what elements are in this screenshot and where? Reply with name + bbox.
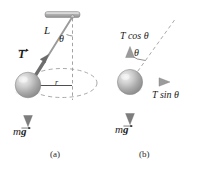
mass-symbol-a: m — [13, 125, 21, 137]
angle-arc-a — [67, 35, 73, 37]
tension-horizontal-component-label: T sin θ — [152, 90, 179, 100]
tension-vector-label: T — [18, 48, 25, 60]
gravity-symbol-a: g — [21, 125, 27, 137]
radius-label: r — [55, 79, 58, 87]
weight-arrow-b — [126, 93, 135, 125]
figure-vector-graphics — [0, 0, 202, 175]
weight-label-a: m g — [13, 126, 26, 137]
ceiling-support-bar — [45, 12, 80, 18]
tension-vertical-component-label: T cos θ — [120, 31, 149, 41]
angle-label-b: θ — [134, 48, 139, 58]
gravity-symbol-b: g — [123, 123, 129, 135]
physics-figure-conical-pendulum: L θ T r m g (a) T cos θ θ T sin θ m — [0, 0, 202, 175]
length-label: L — [44, 25, 50, 36]
panel-a-caption: (a) — [50, 150, 60, 159]
angle-label-a: θ — [59, 34, 64, 44]
mass-symbol-b: m — [115, 123, 123, 135]
pendulum-bob-b — [117, 69, 142, 94]
pendulum-bob — [15, 72, 41, 98]
tension-symbol: T — [18, 47, 25, 61]
weight-arrow-a — [24, 96, 33, 127]
weight-label-b: m g — [115, 124, 128, 135]
panel-b-caption: (b) — [139, 150, 150, 159]
